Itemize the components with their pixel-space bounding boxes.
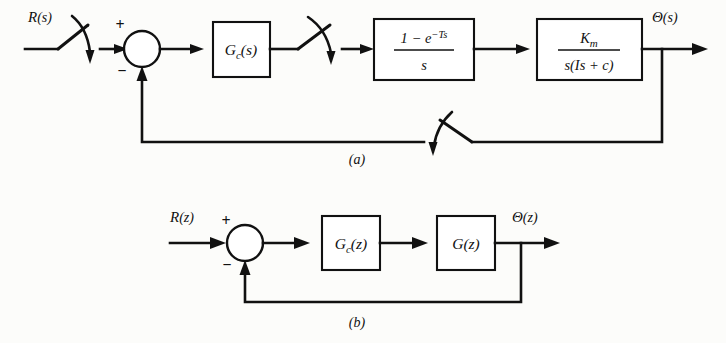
plant-input-arrow-a [516, 44, 530, 54]
diagram-a-group: R(s) + − Gc(s) [25, 9, 708, 168]
minus-sign-b: − [222, 256, 231, 273]
plus-sign-a: + [115, 16, 124, 33]
output-signal-label-b: Θ(z) [512, 209, 538, 226]
summing-junction-b [227, 225, 263, 261]
sampler-arrow-icon [429, 142, 438, 156]
sum-input-arrow-b [210, 237, 226, 249]
caption-a: (a) [349, 152, 366, 168]
controller-input-arrow-a [190, 44, 204, 54]
controller-block-b[interactable]: Gc(z) [322, 216, 380, 270]
sampler-curve [434, 112, 452, 146]
zero-order-hold-block-a[interactable]: 1 − e−Ts s [374, 19, 474, 80]
block-diagram-svg: R(s) + − Gc(s) [0, 0, 726, 343]
feedback-left-wire-a [142, 74, 424, 142]
controller-block-a[interactable]: Gc(s) [213, 22, 270, 77]
sampler-arm [440, 120, 472, 142]
feedback-arrow-a [137, 66, 148, 81]
input-signal-label-b: R(z) [169, 209, 194, 226]
minus-sign-a: − [117, 62, 126, 79]
plus-sign-b: + [221, 212, 230, 229]
zoh-input-arrow-a [360, 44, 374, 54]
feedback-sampler-a[interactable] [429, 112, 473, 156]
output-arrow-b [544, 237, 560, 249]
sampler-curve [308, 17, 331, 53]
input-sampler-a[interactable] [58, 16, 95, 64]
figure-root: R(s) + − Gc(s) [0, 0, 726, 343]
motor-plant-block-a[interactable]: Km s(Is + c) [537, 19, 642, 80]
summing-junction-a [124, 31, 160, 67]
zoh-denominator-a: s [421, 57, 427, 73]
output-signal-label-a: Θ(s) [652, 9, 678, 26]
input-signal-label-a: R(s) [27, 9, 52, 26]
feedback-arrow-b [240, 260, 251, 275]
diagram-b-group: R(z) + − Gc(z) G(z) [169, 209, 560, 331]
plant-denominator-a: s(Is + c) [564, 57, 613, 74]
plant-input-arrow-b [412, 237, 428, 249]
controller-output-sampler-a[interactable] [298, 17, 336, 65]
plant-block-b[interactable]: G(z) [437, 216, 495, 270]
controller-input-arrow-b [294, 237, 310, 249]
plant-block-label-b: G(z) [452, 235, 480, 253]
sampler-arrow-icon [86, 50, 95, 64]
sampler-arrow-icon [327, 51, 336, 65]
output-arrow-a [692, 43, 708, 55]
caption-b: (b) [349, 315, 366, 331]
